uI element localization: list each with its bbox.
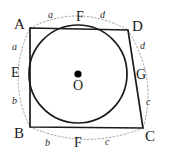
vertex-label-C: C [145, 129, 155, 144]
segment-label-b-bottom: b [45, 138, 50, 148]
segment-label-a-top: a [48, 10, 53, 20]
vertex-label-B: B [14, 126, 24, 141]
tangent-point-label-E: E [11, 66, 20, 80]
segment-label-c-bottom: c [105, 137, 109, 147]
dotted-arc-B-A [18, 28, 30, 127]
tangent-point-label-F-top: F [76, 10, 84, 24]
center-dot [74, 70, 81, 77]
geometry-figure: A D C B E F G F O a d a d b c b c [0, 0, 169, 158]
segment-label-b-left: b [12, 96, 17, 106]
segment-label-d-top: d [100, 10, 105, 20]
vertex-label-D: D [132, 19, 143, 34]
center-label-O: O [73, 79, 83, 93]
tangent-point-label-F-bottom: F [74, 136, 82, 150]
vertex-label-A: A [14, 17, 25, 32]
segment-label-d-right: d [140, 41, 145, 51]
segment-label-c-right: c [146, 97, 150, 107]
tangent-point-label-G: G [136, 68, 146, 82]
segment-label-a-left: a [12, 42, 17, 52]
